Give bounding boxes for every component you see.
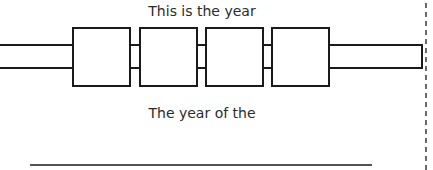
box-3 (206, 28, 263, 86)
box-1 (73, 28, 130, 86)
box-2 (140, 28, 197, 86)
bottom-label: The year of the (2, 105, 402, 121)
timeline-diagram (0, 0, 433, 170)
box-4 (272, 28, 329, 86)
bar-right (329, 45, 422, 68)
